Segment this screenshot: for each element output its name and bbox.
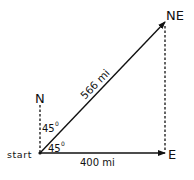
start-point <box>38 151 41 154</box>
northeast-label: NE <box>166 8 184 23</box>
angle-from-north-degree: 0 <box>55 120 59 127</box>
east-distance-label: 400 mi <box>80 157 115 168</box>
vector-diagram: N NE E start 400 mi 566 mi 45 0 45 0 <box>0 0 194 180</box>
angle-from-east-degree: 0 <box>61 140 65 147</box>
resultant-vector-arrow <box>40 22 165 153</box>
east-label: E <box>168 147 176 162</box>
north-label: N <box>35 91 45 106</box>
angle-from-east-label: 45 <box>48 143 61 154</box>
start-label: start <box>7 149 32 160</box>
angle-from-north-label: 45 <box>42 123 55 134</box>
